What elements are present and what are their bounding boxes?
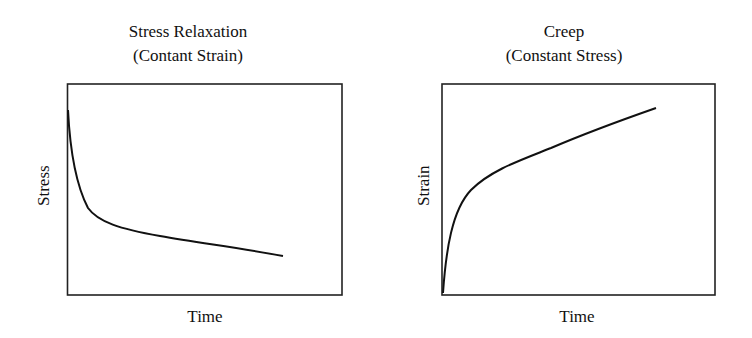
- creep-curve: [443, 108, 656, 293]
- creep-x-label: Time: [542, 307, 612, 327]
- stress-y-label: Stress: [34, 166, 54, 206]
- plot-frame: [68, 84, 343, 295]
- plot-frame: [442, 84, 715, 295]
- creep-y-label: Strain: [414, 166, 434, 206]
- stress-relaxation-plot: [0, 0, 376, 338]
- stress-x-label: Time: [170, 307, 240, 327]
- stress-relaxation-curve: [68, 110, 283, 256]
- creep-panel: Creep (Constant Stress) Strain Time: [376, 0, 752, 338]
- stress-relaxation-panel: Stress Relaxation (Contant Strain) Stres…: [0, 0, 376, 338]
